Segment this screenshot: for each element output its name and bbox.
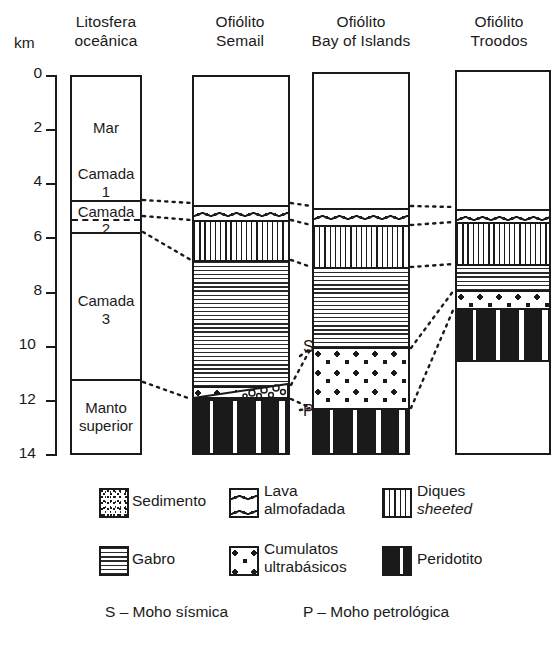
- axis-tick-4: 4: [8, 172, 42, 190]
- legend-text-line2: almofadada: [264, 500, 384, 518]
- legend-label-diques-sheeted: Diques sheeted: [417, 482, 537, 518]
- unit-boi-gabro: [314, 269, 408, 349]
- legend-label-cumulatos-ultrabasicos: Cumulatos ultrabásicos: [264, 540, 394, 576]
- header-line2: Semail: [192, 31, 288, 50]
- legend-text-line1: Diques: [417, 482, 537, 500]
- header-line1: Ofiólito: [192, 12, 288, 31]
- legend-swatch-peridotito: [382, 546, 412, 576]
- header-line1: Ofiólito: [447, 12, 551, 31]
- unit-label-mar: Mar: [72, 119, 140, 137]
- legend: Sedimento Lava almofadada Diques sheeted…: [0, 470, 560, 645]
- legend-text-line2: sheeted: [417, 500, 472, 517]
- legend-text-line1: Gabro: [132, 550, 175, 567]
- unit-semail-blank: [194, 77, 288, 205]
- column-ofiolito-semail: [192, 75, 290, 455]
- unit-label-manto-2: superior: [72, 417, 140, 435]
- unit-semail-lava: [194, 205, 288, 222]
- legend-label-sedimento: Sedimento: [132, 492, 242, 510]
- unit-troodos-diques: [457, 224, 549, 266]
- unit-troodos-gabro: [457, 266, 549, 292]
- unit-boi-peridotito: [314, 410, 408, 453]
- legend-moho-petrologic: P – Moho petrológica: [303, 603, 449, 621]
- unit-semail-peridotito: [194, 401, 288, 453]
- unit-label-camada-2: Camada: [72, 203, 140, 221]
- legend-label-gabro: Gabro: [132, 550, 232, 568]
- header-line1: Ofiólito: [300, 12, 422, 31]
- legend-swatch-sedimento: [99, 488, 129, 518]
- axis-tick-2: 2: [8, 118, 42, 136]
- moho-petrologic-marker: P: [303, 402, 314, 420]
- header-line2: oceânica: [58, 31, 154, 50]
- unit-boi-blank: [314, 74, 408, 208]
- header-line2: Troodos: [447, 31, 551, 50]
- axis-tick-0: 0: [8, 64, 42, 82]
- unit-troodos-blank: [457, 72, 549, 209]
- unit-boi-lava: [314, 208, 408, 227]
- legend-swatch-diques-sheeted: [382, 488, 412, 518]
- axis-unit-label: km: [14, 34, 35, 52]
- legend-label-peridotito: Peridotito: [417, 550, 537, 568]
- unit-label-manto: Manto: [72, 399, 140, 417]
- axis-tick-14: 14: [2, 444, 36, 462]
- legend-text-line1: Cumulatos: [264, 540, 394, 558]
- legend-swatch-cumulatos-ultrabasicos: [229, 546, 259, 576]
- column-header-litosfera: Litosfera oceânica: [58, 12, 154, 50]
- unit-semail-diques: [194, 222, 288, 262]
- unit-label-camada-1-num: 1: [72, 183, 140, 201]
- column-ofiolito-troodos: [455, 70, 551, 455]
- unit-boi-diques: [314, 227, 408, 269]
- axis-tick-8: 8: [8, 281, 42, 299]
- column-header-troodos: Ofiólito Troodos: [447, 12, 551, 50]
- legend-label-lava-almofadada: Lava almofadada: [264, 482, 384, 518]
- unit-troodos-blank-lower: [457, 362, 549, 453]
- legend-swatch-gabro: [99, 546, 129, 576]
- unit-manto-superior: Manto superior: [72, 381, 140, 453]
- unit-label-camada-3-num: 3: [72, 310, 140, 328]
- legend-text-line1: Sedimento: [132, 492, 206, 509]
- legend-text-line1: Lava: [264, 482, 384, 500]
- unit-boi-cumulatos: [314, 349, 408, 410]
- legend-swatch-lava-almofadada: [229, 488, 259, 518]
- column-header-semail: Ofiólito Semail: [192, 12, 288, 50]
- moho-seismic-marker: S: [303, 338, 314, 356]
- column-header-bay-of-islands: Ofiólito Bay of Islands: [300, 12, 422, 50]
- column-litosfera-oceanica: Mar Camada 1 Camada 2 Camada 3 Manto sup…: [70, 75, 142, 455]
- unit-camada-3: Camada 3: [72, 234, 140, 381]
- legend-text-line1: Peridotito: [417, 550, 482, 567]
- axis-tick-10: 10: [2, 335, 36, 353]
- unit-label-camada-1: Camada: [72, 165, 140, 183]
- ophiolite-comparison-figure: Litosfera oceânica Ofiólito Semail Ofiól…: [0, 0, 560, 645]
- unit-semail-gabro: [194, 262, 288, 388]
- axis-tick-12: 12: [2, 390, 36, 408]
- unit-semail-cumulatos: [194, 388, 288, 401]
- header-line2: Bay of Islands: [300, 31, 422, 50]
- axis-tick-6: 6: [8, 227, 42, 245]
- column-ofiolito-bay-of-islands: [312, 72, 410, 455]
- header-line1: Litosfera: [58, 12, 154, 31]
- legend-moho-seismic: S – Moho sísmica: [105, 603, 228, 621]
- unit-troodos-cumulatos: [457, 292, 549, 310]
- unit-troodos-lava: [457, 209, 549, 224]
- unit-label-camada-3: Camada: [72, 292, 140, 310]
- legend-text-line2: ultrabásicos: [264, 558, 394, 576]
- unit-troodos-peridotito: [457, 310, 549, 362]
